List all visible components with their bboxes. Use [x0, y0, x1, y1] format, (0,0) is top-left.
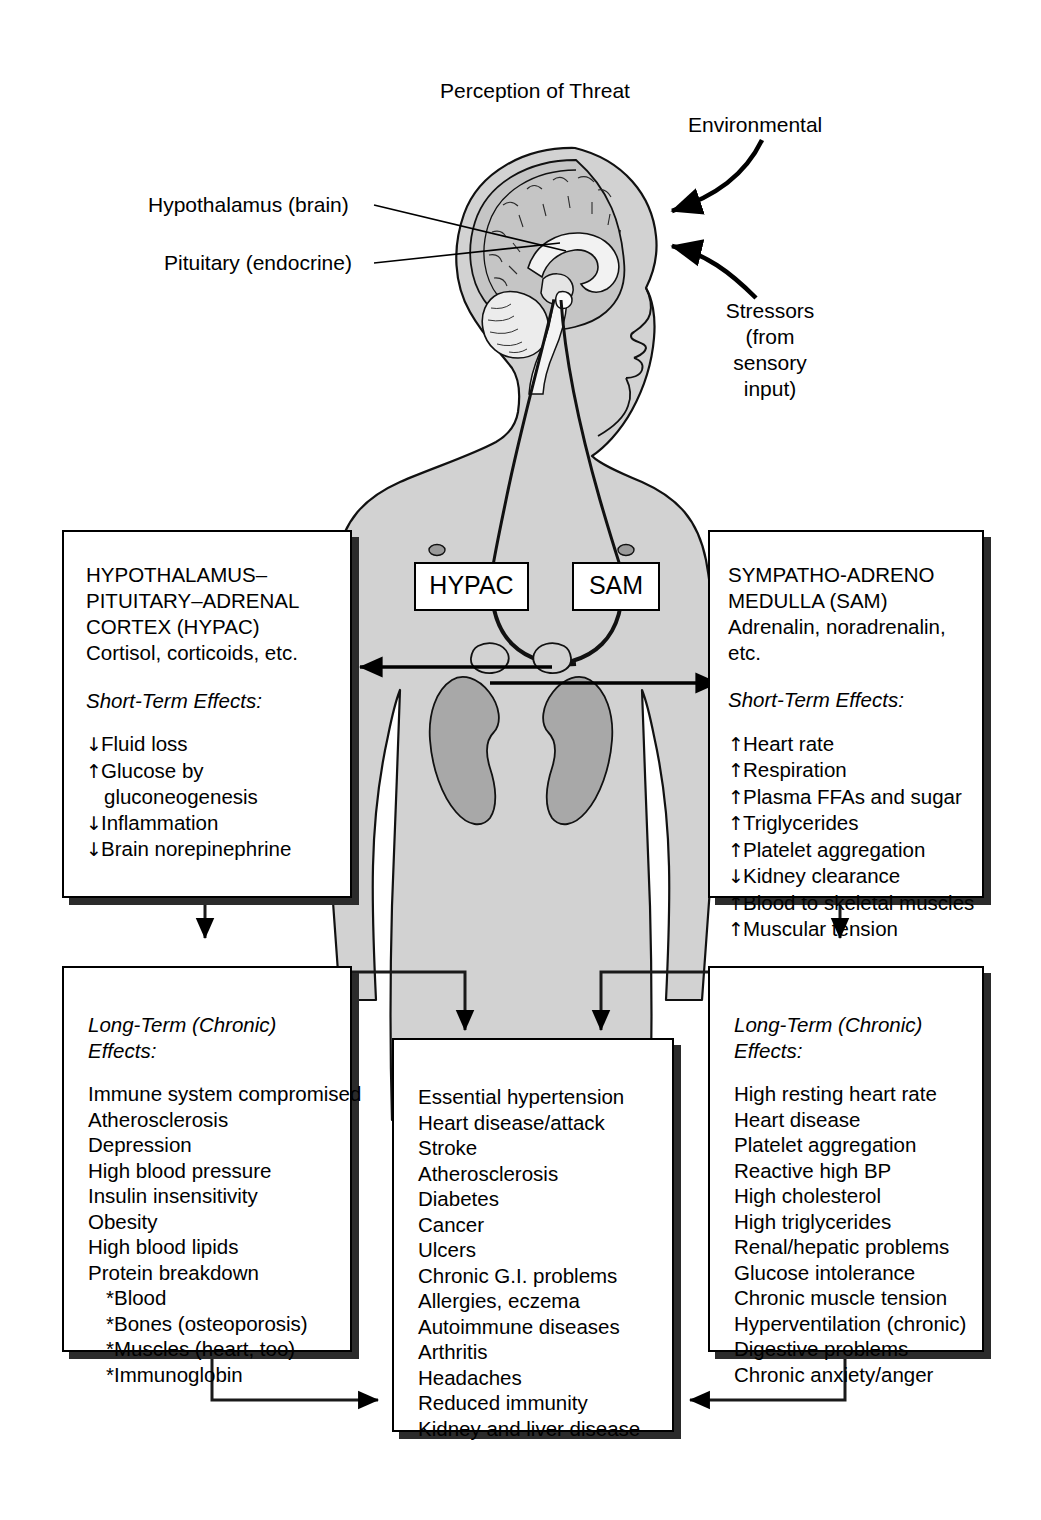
effect-item: ↑Respiration [728, 757, 964, 784]
hypac-effects-list: ↓Fluid loss↑Glucose bygluconeogenesis↓In… [86, 731, 332, 863]
list-item: *Blood [88, 1285, 334, 1311]
pituitary-label: Pituitary (endocrine) [164, 250, 352, 276]
list-item: Atherosclerosis [88, 1107, 334, 1133]
list-item: Reactive high BP [734, 1158, 966, 1184]
list-item: Autoimmune diseases [418, 1314, 656, 1340]
hypac-chronic-box: Long-Term (Chronic) Effects: Immune syst… [62, 966, 352, 1352]
arrow-up-icon: ↑ [728, 785, 743, 811]
list-item: Essential hypertension [418, 1084, 656, 1110]
effect-text: Triglycerides [743, 811, 858, 834]
arrow-up-icon: ↑ [728, 917, 743, 943]
combined-outcomes-list: Essential hypertensionHeart disease/atta… [418, 1084, 656, 1441]
hypothalamus-label: Hypothalamus (brain) [148, 192, 349, 218]
hypac-pathway-label: HYPAC [414, 562, 529, 611]
list-item: Chronic muscle tension [734, 1285, 966, 1311]
list-item: Chronic anxiety/anger [734, 1362, 966, 1388]
effect-item: ↑Blood to skeletal muscles [728, 890, 964, 917]
effect-item: ↓Inflammation [86, 810, 332, 837]
hypac-chronic-list: Immune system compromisedAtherosclerosis… [88, 1081, 334, 1387]
list-item: High cholesterol [734, 1183, 966, 1209]
arrow-up-icon: ↑ [86, 759, 101, 785]
list-item: *Bones (osteoporosis) [88, 1311, 334, 1337]
list-item: Kidney and liver disease [418, 1416, 656, 1442]
list-item: High blood lipids [88, 1234, 334, 1260]
list-item: Depression [88, 1132, 334, 1158]
arrow-down-icon: ↓ [86, 732, 101, 758]
list-item: Obesity [88, 1209, 334, 1235]
list-item: High triglycerides [734, 1209, 966, 1235]
list-item: Headaches [418, 1365, 656, 1391]
effect-item: ↑Heart rate [728, 731, 964, 758]
sam-chronic-box: Long-Term (Chronic) Effects: High restin… [708, 966, 984, 1352]
list-item: Immune system compromised [88, 1081, 334, 1107]
hypac-hormones: Cortisol, corticoids, etc. [86, 640, 332, 666]
environmental-arrow [672, 140, 762, 211]
heading-line: PITUITARY–ADRENAL [86, 588, 332, 614]
heading-line: HYPOTHALAMUS– [86, 562, 332, 588]
effect-text: gluconeogenesis [104, 785, 258, 808]
effect-item: ↑Muscular tension [728, 916, 964, 943]
effect-text: Fluid loss [101, 732, 188, 755]
body-detail-right [618, 545, 634, 556]
sam-short-term-label: Short-Term Effects: [728, 687, 964, 713]
sam-effects-list: ↑Heart rate↑Respiration↑Plasma FFAs and … [728, 731, 964, 943]
effect-item: gluconeogenesis [86, 784, 332, 810]
effect-item: ↑Glucose by [86, 758, 332, 785]
arrow-down-icon: ↓ [728, 864, 743, 890]
effect-item: ↓Fluid loss [86, 731, 332, 758]
hypac-chronic-label: Long-Term (Chronic) Effects: [88, 1012, 334, 1063]
list-item: Heart disease [734, 1107, 966, 1133]
sam-hormones: Adrenalin, noradrenalin, etc. [728, 614, 964, 665]
effect-item: ↓Kidney clearance [728, 863, 964, 890]
hypac-box: HYPOTHALAMUS–PITUITARY–ADRENALCORTEX (HY… [62, 530, 352, 898]
stressor-arrows [672, 140, 762, 298]
effect-text: Plasma FFAs and sugar [743, 785, 962, 808]
hypac-heading: HYPOTHALAMUS–PITUITARY–ADRENALCORTEX (HY… [86, 562, 332, 640]
effect-text: Respiration [743, 758, 847, 781]
list-item: Renal/hepatic problems [734, 1234, 966, 1260]
effect-text: Brain norepinephrine [101, 837, 291, 860]
list-item: High resting heart rate [734, 1081, 966, 1107]
body-detail-left [429, 545, 445, 556]
environmental-label: Environmental [688, 112, 822, 138]
effect-item: ↓Brain norepinephrine [86, 836, 332, 863]
sam-box: SYMPATHO-ADRENOMEDULLA (SAM) Adrenalin, … [708, 530, 984, 898]
list-item: Reduced immunity [418, 1390, 656, 1416]
effect-text: Muscular tension [743, 917, 898, 940]
effect-text: Blood to skeletal muscles [743, 891, 974, 914]
sam-pathway-label: SAM [572, 562, 660, 611]
list-item: Allergies, eczema [418, 1288, 656, 1314]
heading-line: MEDULLA (SAM) [728, 588, 964, 614]
list-item: Insulin insensitivity [88, 1183, 334, 1209]
list-item: Arthritis [418, 1339, 656, 1365]
effect-text: Glucose by [101, 759, 204, 782]
arrow-up-icon: ↑ [728, 838, 743, 864]
list-item: Heart disease/attack [418, 1110, 656, 1136]
list-item: Diabetes [418, 1186, 656, 1212]
combined-outcomes-box: Essential hypertensionHeart disease/atta… [392, 1038, 674, 1432]
list-item: Ulcers [418, 1237, 656, 1263]
stressors-label: Stressors (from sensory input) [700, 298, 840, 402]
page-title: Perception of Threat [415, 78, 655, 104]
list-item: Platelet aggregation [734, 1132, 966, 1158]
list-item: High blood pressure [88, 1158, 334, 1184]
list-item: Protein breakdown [88, 1260, 334, 1286]
effect-text: Platelet aggregation [743, 838, 925, 861]
stress-response-diagram: Perception of Threat Environmental Stres… [0, 0, 1041, 1520]
effect-text: Kidney clearance [743, 864, 900, 887]
heading-line: SYMPATHO-ADRENO [728, 562, 964, 588]
effect-text: Inflammation [101, 811, 218, 834]
arrow-down-icon: ↓ [86, 811, 101, 837]
list-item: *Immunoglobin [88, 1362, 334, 1388]
stressors-arrow [672, 246, 756, 298]
sam-heading: SYMPATHO-ADRENOMEDULLA (SAM) [728, 562, 964, 614]
arrow-up-icon: ↑ [728, 811, 743, 837]
arrow-up-icon: ↑ [728, 758, 743, 784]
effect-text: Heart rate [743, 732, 834, 755]
list-item: Glucose intolerance [734, 1260, 966, 1286]
effect-item: ↑Plasma FFAs and sugar [728, 784, 964, 811]
hypac-short-term-label: Short-Term Effects: [86, 688, 332, 714]
sam-chronic-label: Long-Term (Chronic) Effects: [734, 1012, 966, 1063]
sam-chronic-list: High resting heart rateHeart diseasePlat… [734, 1081, 966, 1387]
list-item: Stroke [418, 1135, 656, 1161]
